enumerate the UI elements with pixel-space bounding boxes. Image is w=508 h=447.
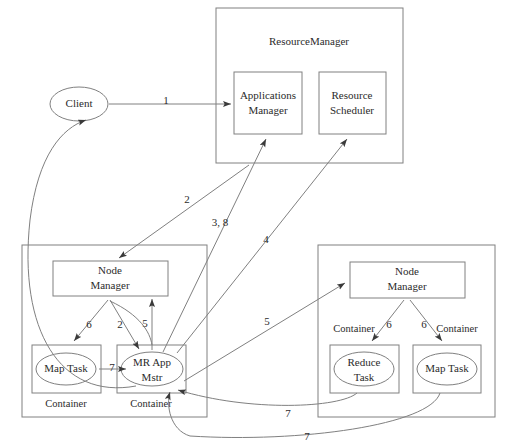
mr-app-container-label: Container: [130, 398, 172, 409]
edge-label-2-top: 2: [184, 193, 190, 205]
mr-app-mstr-label-line2: Mstr: [142, 371, 163, 383]
edge-label-5-left: 5: [142, 317, 148, 329]
right-map-task-container-label: Container: [436, 323, 478, 334]
applications-manager-label-line1: Applications: [240, 89, 296, 101]
edge-label-7-left: 7: [109, 361, 115, 373]
reduce-task-label-line1: Reduce: [348, 356, 381, 368]
node-manager-right-label-line2: Manager: [387, 280, 426, 292]
edge-label-6-map: 6: [421, 318, 427, 330]
left-map-task-container-label: Container: [45, 398, 87, 409]
edge-label-4: 4: [263, 233, 269, 245]
edge-label-5-right: 5: [264, 315, 270, 327]
node-manager-left-label-line1: Node: [98, 264, 122, 276]
edge-apps-manager-to-node-manager-left: [119, 165, 249, 258]
edge-label-1: 1: [163, 94, 169, 106]
node-manager-right-label-line1: Node: [395, 265, 419, 277]
edge-label-6-reduce: 6: [386, 318, 392, 330]
edge-mr-app-to-node-manager-right: [184, 283, 345, 381]
node-manager-left-label-line2: Manager: [90, 279, 129, 291]
edge-mr-app-to-client: [28, 120, 136, 388]
edge-label-7-inner: 7: [285, 407, 291, 419]
edge-node-manager-to-mr-app: [110, 300, 139, 349]
yarn-architecture-diagram: ResourceManager Applications Manager Res…: [0, 0, 508, 447]
reduce-task-label-line2: Task: [354, 371, 375, 383]
mr-app-mstr-label-line1: MR App: [133, 356, 172, 368]
resource-scheduler-label-line1: Resource: [332, 89, 373, 101]
edge-label-3-8: 3, 8: [212, 216, 229, 228]
applications-manager-label-line2: Manager: [248, 104, 287, 116]
resource-scheduler-label-line2: Scheduler: [330, 104, 374, 116]
edge-label-7-outer: 7: [304, 430, 310, 442]
edge-label-2-inner: 2: [117, 318, 123, 330]
resource-manager-box: [216, 8, 403, 163]
map-task-left-label: Map Task: [44, 362, 88, 374]
edge-label-6-left: 6: [86, 318, 92, 330]
reduce-task-container-label: Container: [333, 323, 375, 334]
edge-mr-app-to-resource-scheduler: [177, 139, 347, 353]
map-task-right-label: Map Task: [425, 362, 469, 374]
client-label: Client: [66, 97, 93, 109]
resource-manager-label: ResourceManager: [269, 35, 349, 47]
